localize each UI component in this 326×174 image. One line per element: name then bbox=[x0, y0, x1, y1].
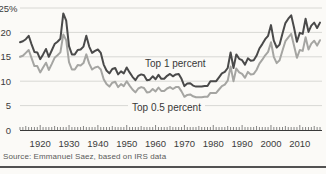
x-axis-label: 1920 bbox=[30, 138, 51, 149]
x-axis-label: 2000 bbox=[260, 138, 281, 149]
series-label-top-0-5-percent: Top 0.5 percent bbox=[128, 101, 205, 114]
x-axis-label: 1940 bbox=[87, 138, 108, 149]
y-axis-label: 20 bbox=[0, 27, 11, 38]
y-axis-label: 15 bbox=[0, 51, 11, 62]
source-attribution: Source: Emmanuel Saez, based on IRS data bbox=[3, 152, 166, 161]
y-axis-label: 5 bbox=[6, 100, 11, 111]
x-axis-label: 1930 bbox=[58, 138, 79, 149]
line-chart: 25%2015105019201930194019501960197019801… bbox=[0, 0, 326, 150]
x-axis-label: 1950 bbox=[116, 138, 137, 149]
y-axis-label: 25% bbox=[0, 3, 18, 14]
y-axis-label: 10 bbox=[0, 76, 11, 87]
series-line-top-1-percent bbox=[20, 13, 320, 86]
x-axis-label: 1980 bbox=[203, 138, 224, 149]
y-axis-label: 0 bbox=[6, 125, 11, 136]
x-axis-label: 1990 bbox=[232, 138, 253, 149]
income-share-chart-card: 25%2015105019201930194019501960197019801… bbox=[0, 0, 326, 174]
bottom-divider bbox=[0, 166, 326, 168]
x-axis-label: 2010 bbox=[289, 138, 310, 149]
series-label-top-1-percent: Top 1 percent bbox=[141, 58, 210, 70]
x-axis-label: 1970 bbox=[174, 138, 195, 149]
x-axis-label: 1960 bbox=[145, 138, 166, 149]
